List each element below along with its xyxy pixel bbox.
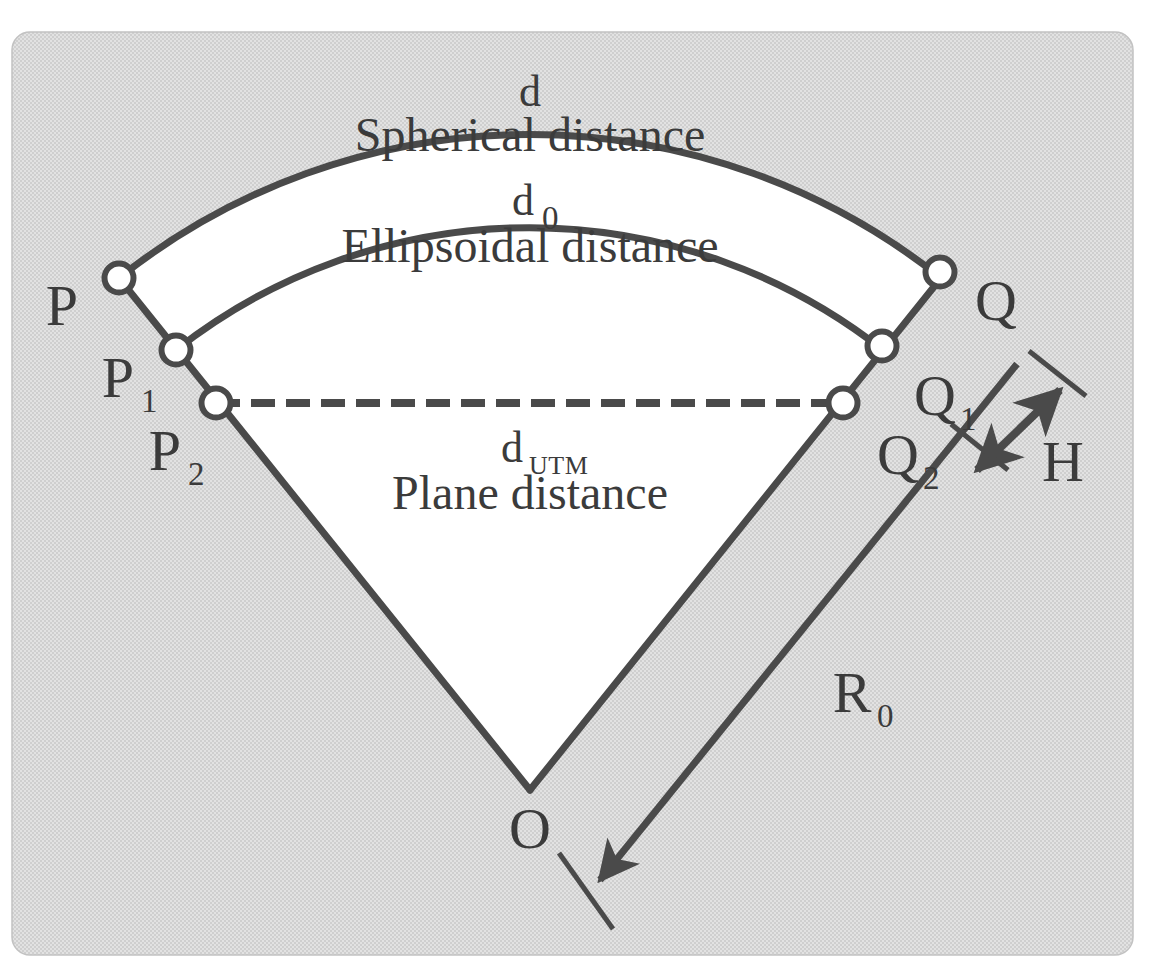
point-label-P2: P [149, 418, 181, 483]
figure-root: d Spherical distance d 0 Ellipsoidal dis… [0, 0, 1153, 979]
height-label: H [1042, 429, 1084, 494]
plane-distance-symbol: d [501, 423, 523, 472]
point-marker-Q1[interactable] [868, 332, 897, 361]
radius-label: R [833, 660, 872, 725]
point-marker-Q2[interactable] [829, 389, 858, 418]
point-marker-P2[interactable] [202, 389, 231, 418]
point-label-O: O [509, 796, 551, 861]
point-label-P1-subscript: 1 [141, 383, 158, 419]
geodetic-distance-diagram: d Spherical distance d 0 Ellipsoidal dis… [0, 0, 1153, 979]
point-marker-P1[interactable] [162, 336, 191, 365]
plane-distance-label: Plane distance [392, 466, 668, 519]
radius-label-subscript: 0 [877, 698, 894, 734]
ellipsoidal-distance-symbol: d [512, 176, 534, 225]
point-marker-Q[interactable] [926, 258, 955, 287]
spherical-distance-label: Spherical distance [355, 108, 706, 161]
point-label-P1: P [102, 345, 134, 410]
ellipsoidal-distance-label: Ellipsoidal distance [341, 219, 718, 272]
point-label-Q: Q [975, 268, 1017, 333]
point-label-Q1: Q [914, 363, 956, 428]
point-label-Q2-subscript: 2 [923, 460, 940, 496]
point-marker-P[interactable] [105, 264, 134, 293]
point-label-P2-subscript: 2 [188, 456, 205, 492]
point-label-Q1-subscript: 1 [960, 401, 977, 437]
point-label-Q2: Q [877, 422, 919, 487]
point-label-P: P [46, 273, 78, 338]
